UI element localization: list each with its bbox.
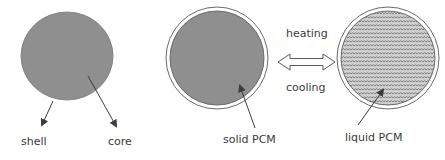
cooling-label: cooling	[286, 81, 326, 94]
core-circle	[21, 12, 113, 100]
liquid-core	[341, 11, 435, 105]
solid-pcm-label: solid PCM	[223, 133, 276, 146]
solid-pcm-capsule	[166, 7, 268, 128]
heating-label: heating	[286, 27, 328, 40]
liquid-pcm-label: liquid PCM	[345, 131, 402, 144]
shell-pointer-arrow	[42, 101, 53, 125]
solid-core	[170, 11, 264, 105]
capsule-structure	[21, 12, 116, 126]
core-label: core	[108, 135, 132, 148]
shell-label: shell	[21, 135, 47, 148]
liquid-pcm-capsule	[337, 7, 439, 125]
phase-change-double-arrow	[278, 54, 335, 70]
